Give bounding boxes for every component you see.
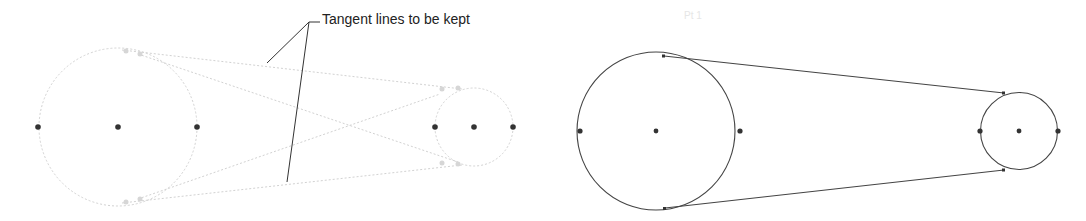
tangent-point-marker — [138, 197, 143, 202]
right-diagram — [577, 52, 1058, 210]
point-small-left-quadrant — [977, 128, 982, 133]
point-small-left-quadrant — [432, 124, 438, 130]
point-left-quadrant — [577, 128, 582, 133]
cross-tangent-2-faint — [138, 94, 440, 199]
point-left-quadrant — [35, 124, 41, 130]
callout-label: Tangent lines to be kept — [322, 11, 470, 27]
diagram-canvas — [0, 0, 1086, 221]
leader-to-bottom-tangent — [287, 22, 309, 182]
tangent-point-marker — [440, 161, 445, 166]
tangent-point-marker — [124, 49, 129, 54]
left-points — [35, 124, 516, 130]
point-large-center — [654, 129, 659, 134]
point-small-right-quadrant — [510, 124, 516, 130]
tangent-endpoint — [663, 207, 666, 210]
tangent-endpoint — [662, 55, 665, 58]
tangent-point-marker — [124, 200, 129, 205]
left-tangent-markers — [124, 49, 461, 205]
outer-tangent-bottom-faint — [122, 165, 462, 203]
tangent-point-marker — [456, 86, 461, 91]
point-large-center — [115, 124, 121, 130]
kept-tangent-bottom — [665, 170, 1004, 208]
kept-tangent-top — [664, 56, 1004, 93]
tangent-point-marker — [138, 52, 143, 57]
tangent-endpoint — [1002, 92, 1005, 95]
point-right-quadrant — [737, 128, 742, 133]
outer-tangent-top-faint — [122, 50, 462, 89]
right-points — [577, 55, 1060, 211]
callout-leader — [267, 22, 320, 182]
tangent-point-marker — [456, 162, 461, 167]
point-small-center — [1017, 129, 1022, 134]
point-small-center — [471, 124, 477, 130]
point-right-quadrant — [194, 124, 200, 130]
point-small-right-quadrant — [1055, 128, 1060, 133]
leader-to-top-tangent — [267, 22, 309, 63]
tangent-point-marker — [440, 87, 445, 92]
tangent-endpoint — [1002, 169, 1005, 172]
faint-label: Pt 1 — [684, 10, 702, 21]
left-diagram — [39, 48, 513, 206]
